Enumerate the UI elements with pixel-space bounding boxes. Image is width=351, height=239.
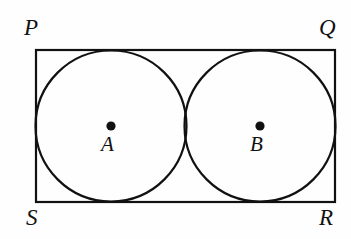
vertex-label-p: P [24, 16, 38, 39]
figure-canvas [0, 0, 351, 239]
center-label-b: B [250, 134, 263, 155]
vertex-label-s: S [26, 206, 38, 229]
vertex-label-q: Q [319, 16, 336, 39]
center-dot-b [255, 121, 264, 130]
center-dot-a [106, 121, 115, 130]
geometry-figure: P Q S R A B [0, 0, 351, 239]
center-label-a: A [101, 134, 114, 155]
vertex-label-r: R [319, 206, 333, 229]
